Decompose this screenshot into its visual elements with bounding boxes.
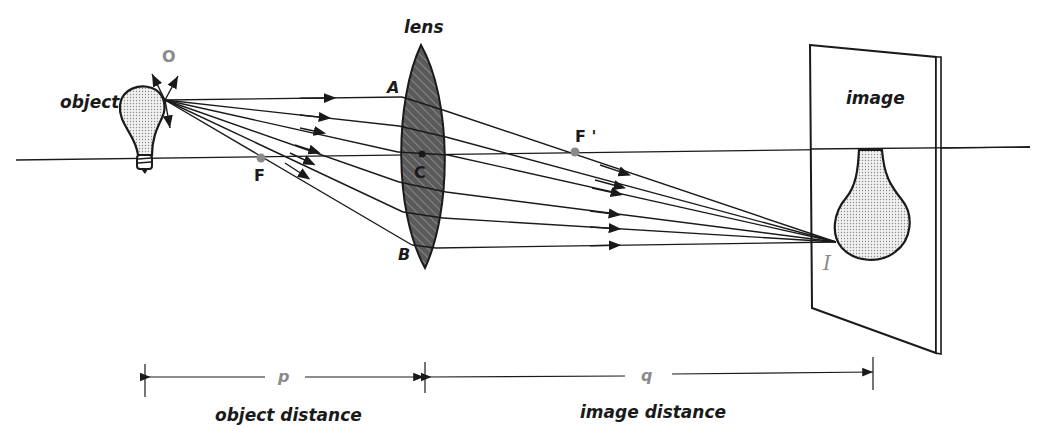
point-b-label: B — [398, 245, 410, 264]
thin-lens-diagram: object O lens A B C F F ' image I p q ob… — [0, 0, 1044, 437]
object-bulb — [120, 87, 165, 174]
focal-point-f — [257, 154, 266, 163]
object-point-label: O — [162, 47, 176, 66]
image-distance-label: image distance — [580, 402, 726, 422]
image-point-label: I — [822, 251, 832, 275]
object-distance-label: object distance — [215, 405, 362, 425]
focal-f-label: F — [254, 166, 265, 185]
q-label: q — [641, 366, 652, 385]
point-a-label: A — [385, 78, 399, 97]
object-label: object — [60, 92, 120, 112]
focal-point-f-prime — [571, 148, 580, 157]
image-screen — [810, 45, 1030, 354]
focal-f-prime-label: F ' — [575, 127, 596, 146]
p-label: p — [277, 367, 289, 386]
point-c-label: C — [414, 163, 426, 182]
lens-center-point — [419, 151, 426, 158]
incoming-rays — [165, 97, 412, 245]
outgoing-rays — [436, 110, 836, 248]
lens-label: lens — [404, 17, 444, 37]
image-label: image — [846, 88, 905, 108]
